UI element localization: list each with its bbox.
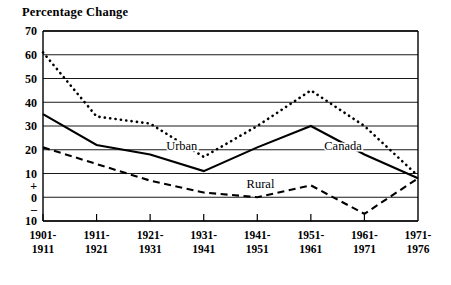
series-annotation-canada: Canada — [324, 139, 362, 153]
series-line-urban — [43, 52, 418, 176]
x-tick-label: 1961- — [351, 229, 378, 241]
y-tick-label: 20 — [25, 143, 37, 157]
y-axis-tick-labels: 70605040302010+0–10 — [25, 24, 38, 228]
x-axis-tick-labels: 1901-19111911-19211921-19311931-19411941… — [30, 229, 432, 255]
x-tick-label: 1951 — [246, 243, 269, 255]
y-tick-label: 60 — [25, 48, 37, 62]
series-annotations: UrbanUrbanCanadaCanadaRuralRural — [166, 139, 362, 191]
series-line-rural — [43, 147, 418, 214]
x-tick-label: 1931 — [139, 243, 162, 255]
data-series-group — [43, 52, 418, 214]
x-tick-label: 1941- — [244, 229, 271, 241]
x-tick-label: 1911 — [32, 243, 55, 255]
x-tick-label: 1921- — [137, 229, 164, 241]
gridlines — [43, 31, 418, 221]
y-tick-label: 40 — [25, 96, 37, 110]
series-annotation-urban: Urban — [166, 139, 198, 153]
x-tick-label: 1976 — [407, 243, 430, 255]
series-annotation-rural: Rural — [247, 177, 275, 191]
y-tick-label: 30 — [25, 119, 37, 133]
y-tick-label: 70 — [25, 24, 37, 38]
x-tick-label: 1931- — [190, 229, 217, 241]
y-tick-label: 10 — [25, 214, 37, 228]
x-tick-label: 1961 — [299, 243, 322, 255]
x-tick-label: 1911- — [83, 229, 109, 241]
x-tick-label: 1941 — [192, 243, 215, 255]
x-tick-label: 1951- — [297, 229, 324, 241]
x-tick-label: 1971- — [405, 229, 432, 241]
y-tick-label: 50 — [25, 72, 37, 86]
percentage-change-chart: Percentage Change 70605040302010+0–10 Ur… — [0, 0, 451, 285]
x-tick-marks — [43, 214, 364, 221]
x-tick-label: 1901- — [30, 229, 57, 241]
chart-plot-area: 70605040302010+0–10 UrbanUrbanCanadaCana… — [0, 0, 451, 285]
x-tick-label: 1971 — [353, 243, 376, 255]
x-tick-label: 1921 — [85, 243, 108, 255]
